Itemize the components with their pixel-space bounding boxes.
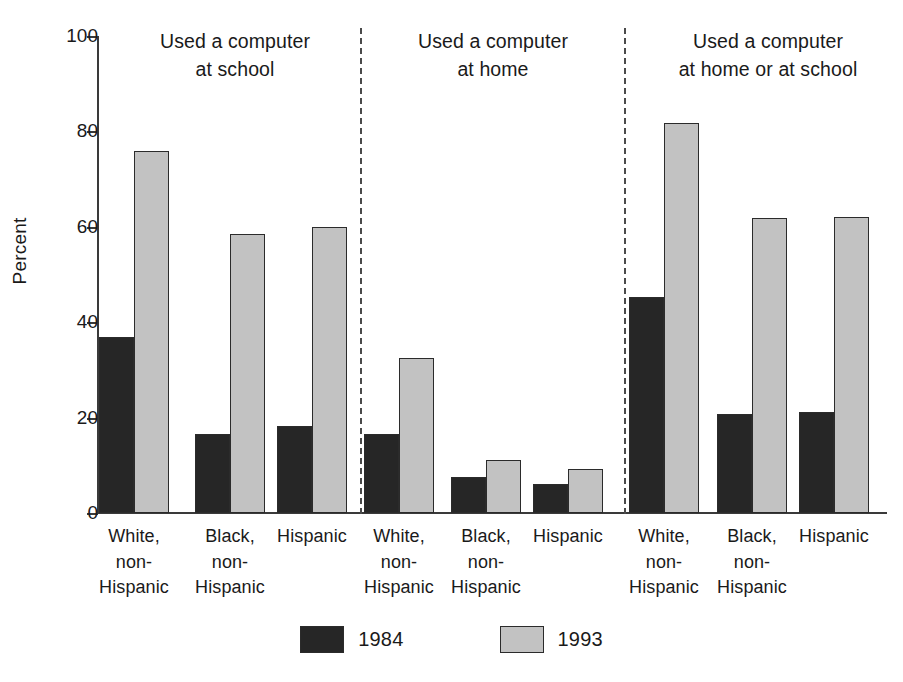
bar-p2-c1-1984 bbox=[717, 414, 752, 513]
bar-p2-c1-1993 bbox=[752, 218, 787, 513]
panel-title-school-line2: at school bbox=[120, 56, 350, 84]
panel-title-school: Used a computer at school bbox=[120, 28, 350, 83]
x-label-p1-c1-line3: Hispanic bbox=[426, 575, 546, 601]
y-tick-label-80: 80 bbox=[52, 121, 98, 140]
y-tick-label-20: 20 bbox=[52, 408, 98, 427]
bar-p2-c2-1993 bbox=[834, 217, 869, 513]
panel-title-home: Used a computer at home bbox=[382, 28, 604, 83]
y-axis-title: Percent bbox=[9, 191, 31, 311]
legend-swatch-1993 bbox=[500, 626, 544, 653]
legend-item-1993: 1993 bbox=[500, 626, 603, 653]
bar-p0-c1-1993 bbox=[230, 234, 265, 513]
x-label-p1-c1-line2: non- bbox=[426, 550, 546, 576]
bar-p0-c0-1993 bbox=[134, 151, 169, 513]
panel-title-home-or-school-line1: Used a computer bbox=[640, 28, 896, 56]
bar-p0-c2-1993 bbox=[312, 227, 347, 513]
bar-p1-c0-1993 bbox=[399, 358, 434, 513]
y-tick-label-100: 100 bbox=[52, 26, 98, 45]
x-label-p2-c2-line1: Hispanic bbox=[774, 524, 894, 550]
y-tick-label-0: 0 bbox=[52, 503, 98, 522]
bar-p0-c1-1984 bbox=[195, 434, 230, 513]
panel-title-home-or-school: Used a computer at home or at school bbox=[640, 28, 896, 83]
bar-p2-c0-1984 bbox=[629, 297, 664, 513]
panel-title-home-line2: at home bbox=[382, 56, 604, 84]
bar-p1-c1-1984 bbox=[451, 477, 486, 513]
x-label-p2-c2: Hispanic bbox=[774, 524, 894, 550]
bar-p2-c2-1984 bbox=[799, 412, 834, 513]
bar-chart: Percent 020406080100 Used a computer at … bbox=[0, 0, 903, 682]
legend-swatch-1984 bbox=[300, 626, 344, 653]
bar-p0-c0-1984 bbox=[99, 337, 134, 513]
legend-label-1993: 1993 bbox=[558, 628, 603, 651]
bar-p1-c1-1993 bbox=[486, 460, 521, 513]
x-label-p2-c1-line3: Hispanic bbox=[692, 575, 812, 601]
legend-label-1984: 1984 bbox=[358, 628, 403, 651]
panel-separator-1 bbox=[360, 28, 362, 514]
panel-title-home-or-school-line2: at home or at school bbox=[640, 56, 896, 84]
bar-p1-c0-1984 bbox=[364, 434, 399, 513]
x-label-p2-c1-line2: non- bbox=[692, 550, 812, 576]
x-label-p0-c1-line2: non- bbox=[170, 550, 290, 576]
bar-p2-c0-1993 bbox=[664, 123, 699, 513]
legend: 1984 1993 bbox=[0, 626, 903, 653]
bar-p1-c2-1984 bbox=[533, 484, 568, 513]
legend-item-1984: 1984 bbox=[300, 626, 403, 653]
panel-separator-2 bbox=[624, 28, 626, 514]
y-tick-label-40: 40 bbox=[52, 312, 98, 331]
x-label-p0-c1-line3: Hispanic bbox=[170, 575, 290, 601]
y-tick-label-60: 60 bbox=[52, 217, 98, 236]
panel-title-home-line1: Used a computer bbox=[382, 28, 604, 56]
bar-p1-c2-1993 bbox=[568, 469, 603, 513]
panel-title-school-line1: Used a computer bbox=[120, 28, 350, 56]
bar-p0-c2-1984 bbox=[277, 426, 312, 513]
